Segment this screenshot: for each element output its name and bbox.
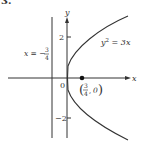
parabola-diagram: 3. x y 0 2 −2 y2 = 3x x = − 3 4 ( [0,0,141,144]
focus-frac-num: 3 [84,82,88,89]
focus-point [80,76,85,81]
x-axis-label: x [132,74,137,83]
y-tick-label-neg2: −2 [55,114,67,123]
y-axis-arrow-icon [65,17,69,23]
diagram-canvas: x y 0 2 −2 y2 = 3x x = − 3 4 ( 3 4 , 0 ) [0,0,141,144]
directrix-frac-num: 3 [45,46,49,53]
directrix-label-prefix: x = − [24,49,46,58]
problem-number: 3. [1,0,11,6]
origin-label: 0 [60,81,65,90]
y-axis-label: y [64,8,70,17]
focus-label-comma: , [89,87,91,95]
focus-label-close-paren: ) [98,82,103,97]
y-tick-label-2: 2 [59,33,64,42]
curve-equation-label: y2 = 3x [100,37,131,47]
x-axis-arrow-icon [125,76,131,80]
directrix-frac-den: 4 [45,54,49,61]
focus-frac-den: 4 [84,90,88,97]
